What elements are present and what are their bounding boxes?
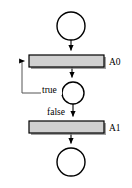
node-a0[interactable]: A0 xyxy=(29,55,121,69)
node-a1-label: A1 xyxy=(109,123,121,133)
edge-label-true-group: true xyxy=(41,84,62,95)
edge-label-false-group: false xyxy=(46,106,70,117)
edge-label-false: false xyxy=(47,107,65,117)
edge-label-true: true xyxy=(42,85,57,95)
node-start-circle[interactable] xyxy=(57,12,85,40)
node-end-circle[interactable] xyxy=(57,148,85,176)
activity-diagram-svg: A0 A1 true false xyxy=(0,0,132,188)
node-end[interactable] xyxy=(57,148,85,176)
node-a0-bar[interactable] xyxy=(29,55,104,67)
node-a1-bar[interactable] xyxy=(29,121,104,133)
activity-diagram-canvas: A0 A1 true false xyxy=(0,0,132,188)
node-a0-label: A0 xyxy=(109,57,121,67)
node-a1[interactable]: A1 xyxy=(29,121,121,135)
node-start[interactable] xyxy=(57,12,85,40)
node-decision-circle[interactable] xyxy=(62,82,84,104)
node-decision[interactable] xyxy=(62,82,84,104)
